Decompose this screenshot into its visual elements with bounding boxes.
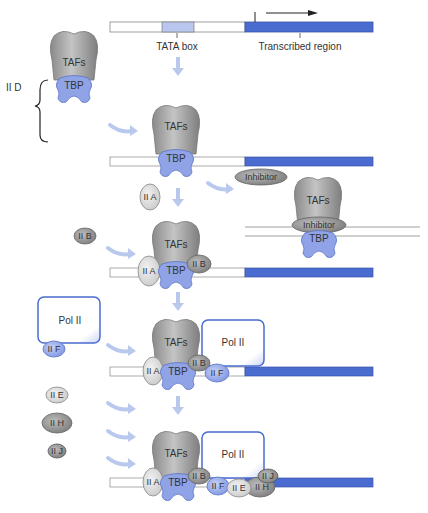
step-inhibited-complex: TAFs Inhibitor TBP [245,177,420,257]
svg-text:II A: II A [143,192,156,202]
svg-text:II A: II A [142,266,155,276]
transcribed-region-label: Transcribed region [258,41,341,52]
svg-text:TBP: TBP [166,265,186,276]
curved-arrow [108,345,130,351]
tata-box [162,22,194,32]
curved-arrow [108,431,130,437]
step-preinitiation-complex: Pol II TAFs II A TBP II B II F II H II E… [110,431,373,500]
tfiid-label: II D [6,82,22,93]
factor-iih-free: II H [42,413,72,433]
transcription-initiation-diagram: TATA box Transcribed region II D TAFs TB… [0,0,428,513]
svg-text:TBP: TBP [168,366,188,377]
svg-text:II B: II B [78,231,92,241]
svg-text:TAFs: TAFs [164,448,187,459]
svg-text:II B: II B [192,358,206,368]
tfiid-bracket [35,80,48,142]
svg-text:TBP: TBP [168,477,188,488]
svg-text:Inhibitor: Inhibitor [303,220,335,230]
step-tfiid-bound: TAFs TBP [110,105,373,176]
factor-iie-free: II E [46,387,68,403]
tfiid-complex-free: II D TAFs TBP [6,31,98,142]
svg-text:II A: II A [146,366,159,376]
curved-arrow [108,403,130,409]
tata-box-label: TATA box [156,41,198,52]
step-pol2-iif-bound: Pol II TAFs II A TBP II B II F [110,319,373,389]
svg-text:II E: II E [50,390,64,400]
svg-text:Inhibitor: Inhibitor [245,172,277,182]
svg-text:TAFs: TAFs [164,239,187,250]
curved-arrow [108,458,130,464]
svg-text:TBP: TBP [166,153,186,164]
svg-text:TAFs: TAFs [164,337,187,348]
factor-iib-free: II B [74,228,96,244]
svg-text:II H: II H [50,418,64,428]
gene-diagram: TATA box Transcribed region [110,10,373,52]
svg-text:II J: II J [51,446,63,456]
svg-text:TAFs: TAFs [164,121,187,132]
svg-text:II F: II F [48,344,62,354]
svg-text:II E: II E [232,483,246,493]
inhibitor-free: Inhibitor [235,169,287,185]
svg-text:Pol II: Pol II [222,449,245,460]
svg-text:II B: II B [192,471,206,481]
svg-text:Pol II: Pol II [59,315,82,326]
svg-text:II F: II F [212,481,226,491]
tafs-label: TAFs [62,57,85,68]
svg-text:II B: II B [192,259,206,269]
pol2-iif-free: Pol II II F [38,297,100,357]
svg-text:TAFs: TAFs [306,195,329,206]
svg-text:Pol II: Pol II [222,337,245,348]
down-arrow [172,57,184,76]
svg-text:II F: II F [211,368,225,378]
transcribed-region [245,22,373,32]
factor-iia-free: II A [140,184,160,210]
svg-text:II J: II J [262,471,274,481]
tbp-label: TBP [64,80,84,91]
svg-text:II A: II A [146,477,159,487]
svg-text:TBP: TBP [309,233,329,244]
curved-arrow [110,125,132,131]
factor-iij-free: II J [48,444,66,458]
svg-text:II H: II H [255,482,269,492]
curved-arrow [108,248,130,254]
